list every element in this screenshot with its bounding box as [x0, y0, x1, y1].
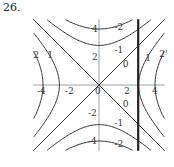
- contour-plot: -4-202442-2-421-2-1012'0-1-2: [0, 0, 174, 167]
- y-tick-label: 2: [92, 52, 98, 62]
- contour-label: -1: [114, 45, 123, 55]
- x-tick-label: 2: [124, 86, 130, 96]
- contour-label: -2: [114, 139, 123, 149]
- contour-label: -1: [114, 118, 123, 128]
- y-tick-label: -4: [88, 136, 97, 146]
- contour-label: 1: [145, 53, 151, 63]
- y-tick-label: 4: [92, 24, 98, 34]
- contour-label: 2': [159, 49, 167, 59]
- contour-label: 1: [47, 50, 53, 60]
- contour-label: 0: [123, 99, 129, 109]
- y-tick-label: -2: [88, 108, 97, 118]
- contour-label: -2: [114, 22, 123, 32]
- contour-label: 2: [33, 50, 39, 60]
- contour-label: 0: [123, 59, 129, 69]
- x-tick-label: 4: [152, 86, 158, 96]
- x-tick-label: -4: [37, 86, 46, 96]
- x-tick-label: -2: [65, 86, 74, 96]
- x-tick-label: 0: [95, 86, 101, 96]
